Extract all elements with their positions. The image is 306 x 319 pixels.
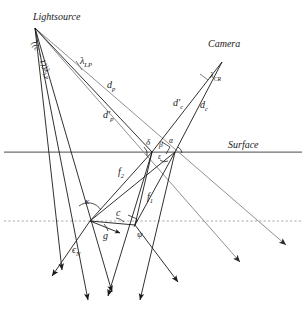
lightsource-black-rays <box>35 28 152 300</box>
lambda-cr-label: λCR <box>210 71 221 82</box>
c-angle-label: c <box>116 208 120 218</box>
vertex-left-up-right <box>90 152 175 221</box>
ls-ray-4-to-surface <box>35 28 152 152</box>
ray-surface-left-down <box>108 152 152 296</box>
refracted-rays <box>52 152 178 300</box>
chord-c <box>90 221 135 225</box>
gray-ray-lower <box>35 28 240 262</box>
diagram-canvas <box>0 0 306 319</box>
arc-kappa <box>79 203 101 210</box>
g-angle-label: g <box>103 231 108 241</box>
alpha-angle-label: α <box>169 137 173 145</box>
vertex-right-up-left <box>135 152 152 225</box>
delta-angle-label: δ <box>146 138 150 147</box>
dp-label: dp <box>107 80 115 93</box>
surface-label: Surface <box>228 140 259 150</box>
lambda-tick-marks <box>76 61 208 80</box>
beta-angle-label: β <box>159 141 163 149</box>
lambda-cr-tick <box>200 74 208 80</box>
dc-label: dc <box>200 100 208 113</box>
lightsource-label: Lightsource <box>33 12 80 22</box>
epsilon-angle-label: ε <box>158 153 161 161</box>
camera-label: Camera <box>208 39 240 49</box>
epsilon-n-label: ϵN <box>72 245 80 258</box>
f1-label: f1 <box>147 192 153 205</box>
dc-prime-label: d′c <box>173 98 183 111</box>
psi-angle-label: ψ <box>137 230 143 239</box>
kappa-angle-label: κ <box>85 197 89 206</box>
f2-label: f2 <box>118 167 124 180</box>
dp-prime-label: d′p <box>103 110 113 123</box>
lambda-lp-label: λLP <box>80 56 92 69</box>
ray-diagram-figure: Lightsource Camera Surface ((c − 1))λLP … <box>0 0 306 319</box>
